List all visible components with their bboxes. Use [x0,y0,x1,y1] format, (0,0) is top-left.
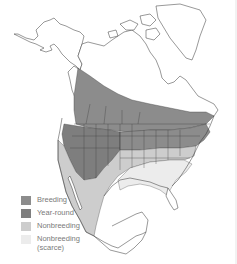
breeding-swatch [21,196,31,205]
legend-item-breeding: Breeding [21,195,80,205]
legend-item-nonbreeding: Nonbreeding [21,221,80,231]
legend: Breeding Year-round Nonbreeding Nonbreed… [21,195,80,255]
nonbreeding-scarce-swatch [21,235,31,244]
nonbreeding-swatch [21,222,31,231]
florida-outline [166,188,178,210]
legend-label: Year-round [37,208,74,217]
frame-edge [235,0,237,264]
legend-label: Nonbreeding [37,221,80,230]
alaska-outline [14,18,84,70]
legend-label: Breeding [37,195,67,204]
central-america-outline [94,232,146,254]
legend-label-line2: (scarce) [37,243,64,252]
year-round-swatch [21,209,31,218]
legend-label-line1: Nonbreeding [37,234,80,243]
legend-item-nonbreeding-scarce: Nonbreeding (scarce) [21,234,80,252]
greenland-outline [156,4,206,60]
legend-item-year-round: Year-round [21,208,80,218]
legend-label: Nonbreeding (scarce) [37,234,80,252]
